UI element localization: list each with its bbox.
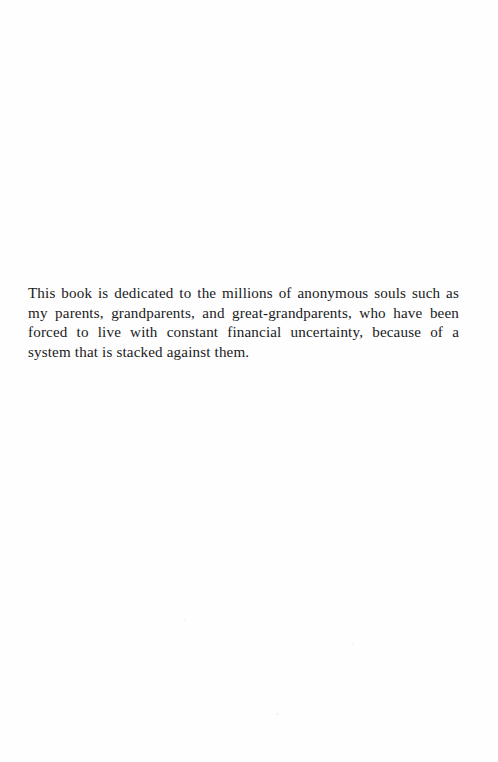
scan-speck — [184, 619, 186, 621]
scan-speck — [465, 601, 467, 602]
dedication-block: This book is dedicated to the millions o… — [28, 284, 459, 362]
dedication-paragraph: This book is dedicated to the millions o… — [28, 284, 459, 362]
book-page: This book is dedicated to the millions o… — [0, 0, 498, 762]
scan-speck — [276, 713, 279, 715]
scan-speck — [352, 643, 354, 645]
